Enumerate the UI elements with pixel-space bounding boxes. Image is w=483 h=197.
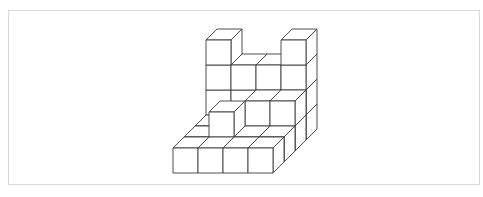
cube-front-face	[245, 101, 270, 126]
cube-front-face	[231, 65, 256, 90]
cube-front-face	[281, 65, 306, 90]
cube-front-face	[198, 148, 223, 173]
cube-front-face	[248, 148, 273, 173]
cube-front-face	[206, 40, 231, 65]
cube-front-face	[270, 101, 295, 126]
cube-front-face	[173, 148, 198, 173]
cube-front-face	[281, 40, 306, 65]
cube-front-face	[209, 112, 234, 137]
cube-front-face	[206, 65, 231, 90]
cube-stack-drawing	[0, 0, 483, 197]
cube-front-face	[223, 148, 248, 173]
cube-front-face	[256, 65, 281, 90]
